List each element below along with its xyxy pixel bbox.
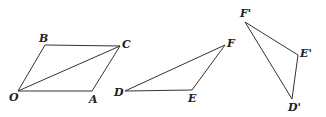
label-o: O (9, 92, 19, 103)
label-f-prime: F' (240, 8, 251, 19)
label-f: F (227, 38, 235, 49)
label-d-prime: D' (288, 102, 301, 113)
label-b: B (39, 33, 48, 44)
diagram-canvas (0, 0, 326, 117)
triangle-dprime-eprime-fprime (245, 22, 298, 99)
label-e-prime: E' (300, 48, 312, 59)
diagonal-oc (18, 46, 120, 91)
label-d: D (114, 87, 124, 98)
label-c: C (122, 39, 131, 50)
label-a: A (89, 94, 98, 105)
label-e: E (188, 93, 196, 104)
triangle-def (125, 45, 225, 91)
